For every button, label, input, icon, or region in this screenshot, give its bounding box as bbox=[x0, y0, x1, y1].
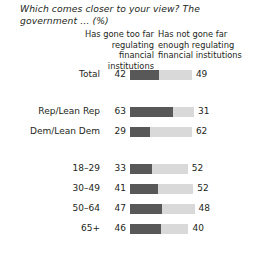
value-too-far: 42 bbox=[100, 69, 126, 80]
value-too-far: 46 bbox=[100, 223, 126, 234]
stacked-bar bbox=[130, 184, 193, 194]
stacked-bar bbox=[130, 127, 192, 137]
stacked-bar bbox=[130, 164, 188, 174]
chart-row: Total4249 bbox=[0, 66, 254, 86]
bar-segment-too-far bbox=[130, 184, 158, 194]
bar-segment-not-far-enough bbox=[159, 70, 192, 80]
value-not-far-enough: 52 bbox=[197, 183, 208, 194]
stacked-bar bbox=[130, 224, 188, 234]
chart-rows: Total4249Rep/Lean Rep6331Dem/Lean Dem296… bbox=[0, 66, 254, 240]
chart-row: 30–494152 bbox=[0, 180, 254, 200]
row-label: 18–29 bbox=[0, 163, 100, 174]
stacked-bar bbox=[130, 107, 194, 117]
bar-segment-not-far-enough bbox=[162, 204, 195, 214]
group-spacer bbox=[0, 143, 254, 160]
bar-segment-not-far-enough bbox=[152, 164, 187, 174]
value-not-far-enough: 62 bbox=[196, 126, 207, 137]
row-group-age: 18–29335230–49415250–64474865+4640 bbox=[0, 160, 254, 240]
chart-container: Which comes closer to your view? The gov… bbox=[0, 0, 254, 258]
value-not-far-enough: 31 bbox=[198, 106, 209, 117]
group-spacer bbox=[0, 86, 254, 103]
value-not-far-enough: 49 bbox=[196, 69, 207, 80]
bar-segment-too-far bbox=[130, 70, 159, 80]
row-label: Total bbox=[0, 69, 100, 80]
bar-segment-too-far bbox=[130, 224, 161, 234]
row-label: Rep/Lean Rep bbox=[0, 106, 100, 117]
value-too-far: 47 bbox=[100, 203, 126, 214]
bar-segment-too-far bbox=[130, 107, 173, 117]
row-group-overall: Total4249 bbox=[0, 66, 254, 86]
bar-segment-too-far bbox=[130, 127, 150, 137]
bar-segment-too-far bbox=[130, 204, 162, 214]
row-label: 30–49 bbox=[0, 183, 100, 194]
value-not-far-enough: 52 bbox=[192, 163, 203, 174]
row-label: 50–64 bbox=[0, 203, 100, 214]
value-too-far: 63 bbox=[100, 106, 126, 117]
row-label: 65+ bbox=[0, 223, 100, 234]
bar-segment-not-far-enough bbox=[173, 107, 194, 117]
chart-row: Dem/Lean Dem2962 bbox=[0, 123, 254, 143]
value-too-far: 29 bbox=[100, 126, 126, 137]
value-not-far-enough: 40 bbox=[192, 223, 203, 234]
stacked-bar bbox=[130, 204, 195, 214]
row-group-party: Rep/Lean Rep6331Dem/Lean Dem2962 bbox=[0, 103, 254, 143]
stacked-bar bbox=[130, 70, 192, 80]
bar-segment-too-far bbox=[130, 164, 152, 174]
value-too-far: 41 bbox=[100, 183, 126, 194]
bar-segment-not-far-enough bbox=[161, 224, 188, 234]
value-too-far: 33 bbox=[100, 163, 126, 174]
row-label: Dem/Lean Dem bbox=[0, 126, 100, 137]
value-not-far-enough: 48 bbox=[199, 203, 210, 214]
chart-row: 50–644748 bbox=[0, 200, 254, 220]
chart-title: Which comes closer to your view? The gov… bbox=[20, 3, 230, 27]
bar-segment-not-far-enough bbox=[150, 127, 192, 137]
bar-segment-not-far-enough bbox=[158, 184, 193, 194]
chart-row: Rep/Lean Rep6331 bbox=[0, 103, 254, 123]
chart-row: 18–293352 bbox=[0, 160, 254, 180]
chart-row: 65+4640 bbox=[0, 220, 254, 240]
